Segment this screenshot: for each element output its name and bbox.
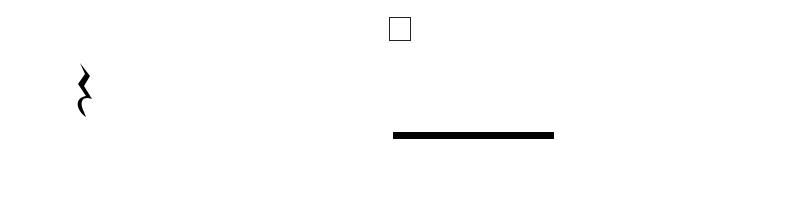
rehearsal-mark: [389, 17, 411, 41]
quarter-rest-icon: [78, 63, 92, 117]
eighth-note-beam: [393, 132, 554, 139]
